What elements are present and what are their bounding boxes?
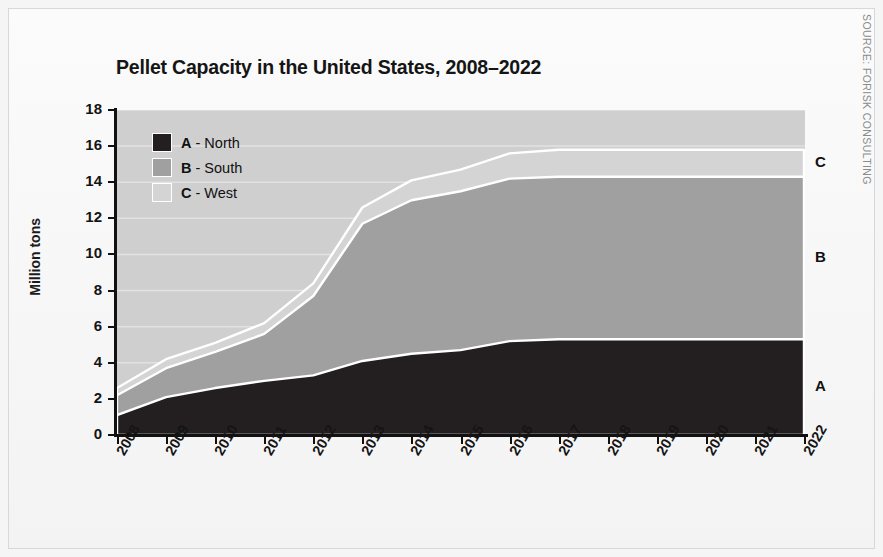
chart-title: Pellet Capacity in the United States, 20… [116, 56, 541, 79]
y-tick [108, 398, 115, 400]
legend-label-west: C - West [181, 185, 237, 201]
y-tick-label: 2 [62, 389, 102, 406]
source-note: SOURCE: FORISK CONSULTING [861, 14, 873, 185]
legend-label-north: A - North [181, 135, 240, 151]
legend-item-south[interactable]: B - South [152, 158, 242, 177]
legend-item-north[interactable]: A - North [152, 133, 242, 152]
legend-item-west[interactable]: C - West [152, 183, 242, 202]
series-end-label-north: A [815, 377, 826, 394]
y-tick [108, 109, 115, 111]
y-axis-line [114, 108, 117, 437]
y-tick-label: 14 [62, 172, 102, 189]
legend-swatch-north [152, 133, 172, 152]
legend-swatch-west [152, 183, 172, 202]
y-tick [108, 326, 115, 328]
chart-page: SOURCE: FORISK CONSULTING Pellet Capacit… [0, 0, 883, 557]
series-end-label-south: B [815, 248, 826, 265]
y-tick [108, 290, 115, 292]
y-tick-label: 4 [62, 353, 102, 370]
series-end-label-west: C [815, 153, 826, 170]
y-tick-label: 16 [62, 136, 102, 153]
y-tick-label: 6 [62, 317, 102, 334]
y-tick-label: 8 [62, 281, 102, 298]
legend-swatch-south [152, 158, 172, 177]
y-tick [108, 434, 115, 436]
y-tick [108, 362, 115, 364]
y-tick-label: 10 [62, 244, 102, 261]
y-axis-title: Million tons [27, 218, 43, 296]
legend-label-south: B - South [181, 160, 242, 176]
y-tick [108, 253, 115, 255]
y-tick-label: 0 [62, 425, 102, 442]
y-tick-label: 18 [62, 100, 102, 117]
y-tick [108, 217, 115, 219]
y-tick [108, 181, 115, 183]
y-tick-label: 12 [62, 208, 102, 225]
y-tick [108, 145, 115, 147]
chart-legend: A - NorthB - SouthC - West [152, 133, 242, 202]
